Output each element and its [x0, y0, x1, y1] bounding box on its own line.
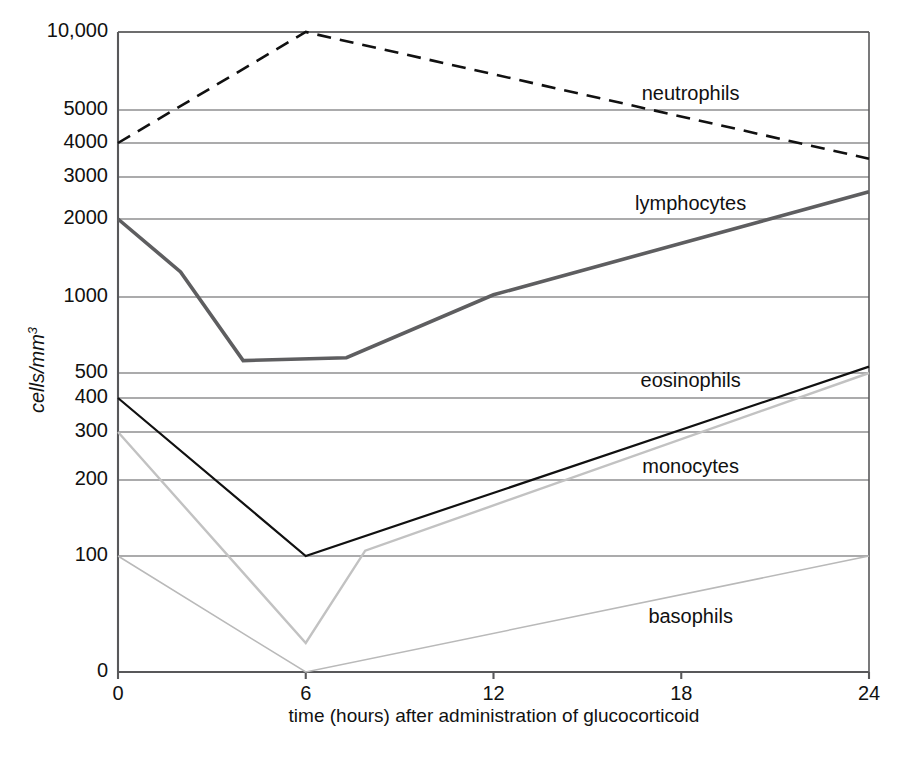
series-label-group: neutrophilslymphocyteseosinophilsmonocyt… — [635, 82, 746, 627]
series-label-eosinophils: eosinophils — [641, 369, 741, 391]
x-axis-title: time (hours) after administration of glu… — [289, 705, 700, 726]
x-tick-label-24: 24 — [858, 682, 880, 704]
x-tick-label-18: 18 — [670, 682, 692, 704]
y-axis-tick-labels: 01002003004005001000200030004000500010,0… — [47, 19, 108, 681]
x-axis-tick-labels: 06121824 — [112, 682, 880, 704]
series-label-basophils: basophils — [648, 605, 733, 627]
series-line-eosinophils — [118, 367, 869, 556]
series-label-neutrophils: neutrophils — [642, 82, 740, 104]
series-label-lymphocytes: lymphocytes — [635, 192, 746, 214]
leukocyte-response-line-chart: 01002003004005001000200030004000500010,0… — [0, 0, 904, 762]
y-tick-label-2000: 2000 — [64, 206, 109, 228]
plot-frame — [118, 32, 869, 679]
series-label-monocytes: monocytes — [642, 455, 739, 477]
x-tick-label-12: 12 — [482, 682, 504, 704]
data-series-group — [118, 32, 869, 672]
y-tick-label-4000: 4000 — [64, 130, 109, 152]
y-tick-label-200: 200 — [75, 467, 108, 489]
y-tick-label-1000: 1000 — [64, 284, 109, 306]
chart-container: 01002003004005001000200030004000500010,0… — [0, 0, 904, 762]
y-tick-label-300: 300 — [75, 419, 108, 441]
axis-titles: cells/mm3 time (hours) after administrat… — [25, 326, 700, 726]
y-tick-label-400: 400 — [75, 385, 108, 407]
y-tick-label-500: 500 — [75, 360, 108, 382]
y-tick-label-10000: 10,000 — [47, 19, 108, 41]
x-tick-label-6: 6 — [300, 682, 311, 704]
y-tick-label-0: 0 — [97, 659, 108, 681]
series-line-monocytes — [118, 373, 869, 643]
series-line-neutrophils — [118, 32, 869, 159]
series-line-lymphocytes — [118, 192, 869, 361]
y-tick-label-5000: 5000 — [64, 97, 109, 119]
y-tick-label-100: 100 — [75, 543, 108, 565]
y-tick-label-3000: 3000 — [64, 164, 109, 186]
y-axis-title: cells/mm3 — [25, 326, 49, 413]
series-line-basophils — [118, 556, 869, 672]
x-tick-label-0: 0 — [112, 682, 123, 704]
